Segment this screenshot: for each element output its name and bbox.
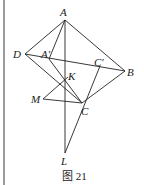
label-D: D xyxy=(12,48,21,60)
figure-canvas: A D A′ C′ B K M C L 图 21 xyxy=(0,0,144,185)
label-M: M xyxy=(30,93,41,105)
label-C-prime: C′ xyxy=(94,56,104,68)
label-A: A xyxy=(59,6,67,18)
label-L: L xyxy=(60,155,67,167)
label-C: C xyxy=(81,105,89,117)
figure-caption: 图 21 xyxy=(62,170,87,182)
segment-A1C xyxy=(49,59,82,103)
label-A-prime: A′ xyxy=(40,48,51,60)
segment-BC xyxy=(82,71,125,103)
label-K: K xyxy=(67,70,76,82)
geometry-figure: A D A′ C′ B K M C L 图 21 xyxy=(0,0,144,185)
segment-MC xyxy=(43,99,82,103)
segment-DB xyxy=(25,54,125,71)
segment-AA1 xyxy=(49,20,65,59)
label-B: B xyxy=(127,66,134,78)
